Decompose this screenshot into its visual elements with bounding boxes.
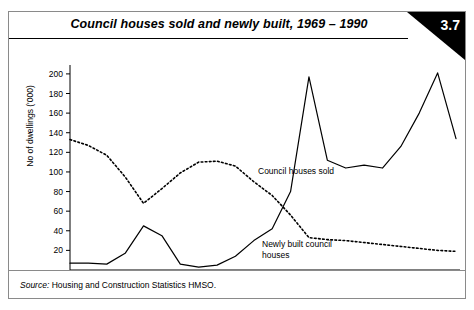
page-title: Council houses sold and newly built, 196… xyxy=(9,17,429,31)
annotation-newly-built-line1: Newly built council xyxy=(262,239,332,249)
y-tick-label: 20 xyxy=(54,245,64,255)
y-tick-label: 200 xyxy=(49,69,63,79)
source-text: Housing and Construction Statistics HMSO… xyxy=(52,280,216,290)
title-bar: Council houses sold and newly built, 196… xyxy=(9,12,465,39)
plot-area: No of dwellings ('000) 20406080100120140… xyxy=(9,39,465,271)
series-annotations: Council houses soldNewly built councilho… xyxy=(258,166,334,260)
source-note: Source: Housing and Construction Statist… xyxy=(20,280,216,290)
y-tick-label: 120 xyxy=(49,147,63,157)
y-tick-label: 160 xyxy=(49,108,63,118)
y-axis-title: No of dwellings ('000) xyxy=(25,71,35,181)
corner-badge-number: 3.7 xyxy=(441,17,460,33)
y-tick-label: 80 xyxy=(54,187,64,197)
source-label: Source: xyxy=(20,280,49,290)
annotation-council-houses-sold: Council houses sold xyxy=(258,166,334,176)
y-tick-label: 60 xyxy=(54,206,64,216)
figure-panel: Council houses sold and newly built, 196… xyxy=(8,11,466,299)
source-divider xyxy=(9,270,465,271)
line-chart-svg: 20406080100120140160180200 1970197219741… xyxy=(9,39,465,271)
y-tick-label: 140 xyxy=(49,128,63,138)
annotation-newly-built-line2: houses xyxy=(262,250,289,260)
y-tick-labels: 20406080100120140160180200 xyxy=(49,69,63,255)
y-tick-label: 40 xyxy=(54,226,64,236)
y-tick-label: 180 xyxy=(49,89,63,99)
y-tick-label: 100 xyxy=(49,167,63,177)
